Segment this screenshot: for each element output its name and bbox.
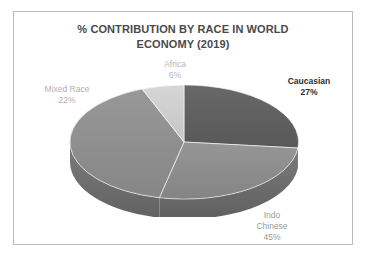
- pie-label-caucasian-name: Caucasian: [266, 76, 352, 87]
- pie-label-africa-value: 6%: [140, 70, 210, 81]
- pie-3d-side-walls: [70, 142, 298, 217]
- pie-label-mixed-race-value: 22%: [24, 95, 110, 106]
- chart-title: % CONTRIBUTION BY RACE IN WORLD ECONOMY …: [14, 22, 352, 52]
- pie-slice-africa[interactable]: [142, 85, 184, 142]
- pie-wall-indo-chinese: [159, 148, 298, 217]
- pie-label-indo-chinese-value: 45%: [232, 232, 312, 243]
- pie-label-caucasian-value: 27%: [266, 87, 352, 98]
- pie-slice-indo-chinese[interactable]: [159, 142, 298, 199]
- pie-label-africa: Africa 6%: [140, 59, 210, 81]
- chart-frame: % CONTRIBUTION BY RACE IN WORLD ECONOMY …: [13, 11, 353, 245]
- pie-label-mixed-race-name: Mixed Race: [24, 84, 110, 95]
- pie-wall-mixed-race: [70, 142, 159, 217]
- pie-label-mixed-race: Mixed Race 22%: [24, 84, 110, 106]
- pie-label-caucasian: Caucasian 27%: [266, 76, 352, 98]
- pie-label-indo-chinese: Indo Chinese 45%: [232, 210, 312, 243]
- chart-title-line-1: % CONTRIBUTION BY RACE IN WORLD: [14, 22, 352, 37]
- pie-label-indo-chinese-name-1: Indo: [232, 210, 312, 221]
- pie-label-indo-chinese-name-2: Chinese: [232, 221, 312, 232]
- chart-title-line-2: ECONOMY (2019): [14, 37, 352, 52]
- pie-label-africa-name: Africa: [140, 59, 210, 70]
